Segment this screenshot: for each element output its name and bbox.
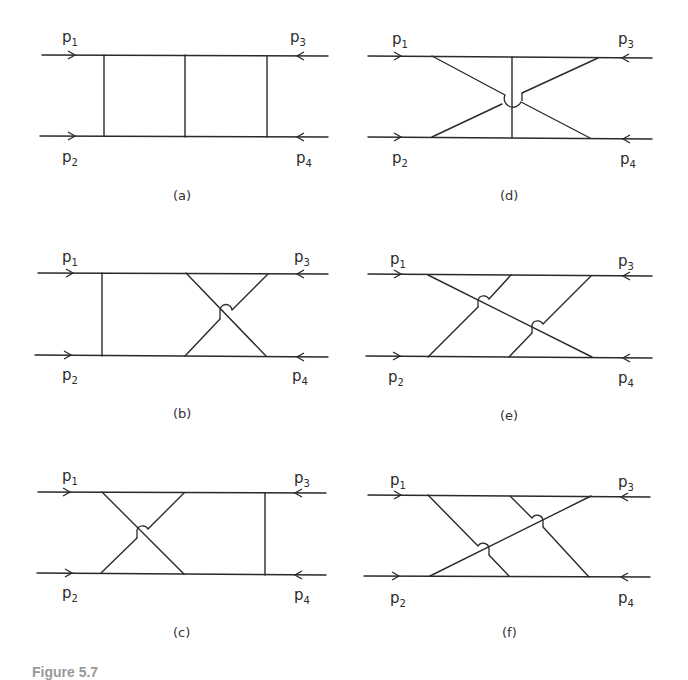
bottom-line <box>35 355 328 357</box>
panel-d: p1 p2 p3 p4 (d) <box>368 30 652 203</box>
bottom-line <box>368 137 652 139</box>
diagonal <box>489 555 509 576</box>
label-p3: p3 <box>290 28 306 48</box>
diagonal <box>428 307 478 357</box>
bottom-line <box>364 576 650 577</box>
diagonal <box>543 527 589 577</box>
diagonal <box>510 496 532 518</box>
diagonal <box>543 276 591 324</box>
label-p4: p4 <box>620 150 636 170</box>
diagonal <box>432 56 505 95</box>
label-p3: p3 <box>618 252 634 272</box>
diagonal <box>428 495 478 546</box>
diagonal <box>432 104 502 137</box>
panel-f: p1 p2 p3 p4 (f) <box>364 471 650 640</box>
diagonal <box>101 538 137 573</box>
panel-label: (b) <box>173 406 191 421</box>
diagonal <box>521 102 590 138</box>
diagonal <box>102 492 184 574</box>
label-p2: p2 <box>392 149 408 169</box>
diagonal <box>185 319 220 356</box>
bottom-line <box>37 573 326 575</box>
label-p2: p2 <box>62 584 78 604</box>
label-p1: p1 <box>392 30 408 50</box>
label-p2: p2 <box>390 589 406 609</box>
label-p3: p3 <box>618 30 634 50</box>
hop-arc <box>220 304 232 319</box>
bottom-line <box>40 136 328 137</box>
label-p4: p4 <box>296 149 312 169</box>
panel-c: p1 p2 p3 p4 (c) <box>37 467 326 640</box>
diagonal <box>186 273 266 356</box>
top-line <box>38 492 326 493</box>
label-p4: p4 <box>618 589 634 609</box>
label-p3: p3 <box>294 248 310 268</box>
label-p4: p4 <box>292 367 308 387</box>
panel-label: (d) <box>500 188 518 203</box>
label-p2: p2 <box>388 368 404 388</box>
diagonal <box>489 275 511 299</box>
panel-label: (c) <box>173 625 190 640</box>
top-line <box>368 495 650 497</box>
top-line <box>368 56 652 58</box>
diagonal <box>148 493 184 529</box>
panel-b: p1 p2 p3 p4 (b) <box>35 248 328 421</box>
panel-label: (e) <box>500 408 518 423</box>
diagonal <box>522 58 598 93</box>
label-p1: p1 <box>390 471 406 491</box>
long-diagonal <box>428 275 592 357</box>
label-p1: p1 <box>62 248 78 268</box>
figure-caption: Figure 5.7 <box>32 664 98 680</box>
label-p1: p1 <box>62 28 78 48</box>
diagonal <box>509 333 532 357</box>
label-p3: p3 <box>618 473 634 493</box>
panel-a: p1 p2 p3 p4 (a) <box>40 28 328 203</box>
label-p2: p2 <box>62 148 78 168</box>
panel-label: (f) <box>502 625 517 640</box>
label-p1: p1 <box>62 467 78 487</box>
long-diagonal <box>430 496 591 576</box>
top-line <box>38 273 328 274</box>
label-p2: p2 <box>62 366 78 386</box>
label-p4: p4 <box>294 586 310 606</box>
label-p3: p3 <box>294 469 310 489</box>
label-p4: p4 <box>618 369 634 389</box>
diagonal <box>232 274 268 310</box>
panel-label: (a) <box>173 188 191 203</box>
label-p1: p1 <box>390 250 406 270</box>
panel-e: p1 p2 p3 p4 (e) <box>366 250 652 423</box>
